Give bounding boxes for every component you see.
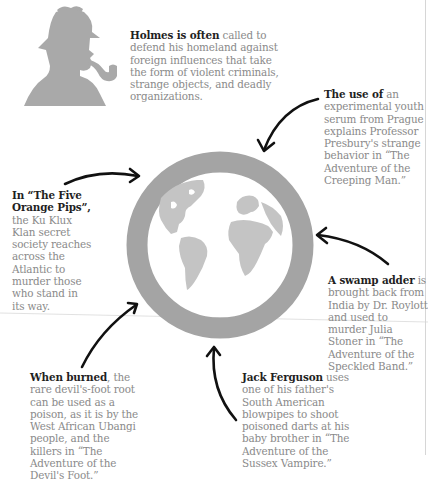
hand-drawn-arrow-icon: [318, 235, 388, 264]
hand-drawn-arrow-icon: [65, 173, 138, 184]
hand-drawn-arrow-icon: [213, 348, 236, 420]
hand-drawn-arrow-icon: [264, 99, 318, 150]
hand-drawn-arrow-icon: [82, 305, 136, 367]
